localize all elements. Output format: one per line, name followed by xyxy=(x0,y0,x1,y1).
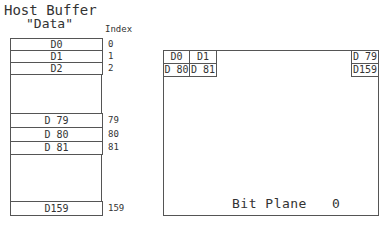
host-buffer-subtitle: "Data" xyxy=(26,16,73,31)
index-79: 79 xyxy=(108,115,119,125)
index-1: 1 xyxy=(108,51,113,61)
plane-cell-d80: D 80 xyxy=(163,63,190,77)
index-0: 0 xyxy=(108,39,113,49)
bit-plane-label: Bit Plane 0 xyxy=(232,196,340,211)
plane-cell-d79: D 79 xyxy=(351,50,379,64)
index-159: 159 xyxy=(108,203,124,213)
index-2: 2 xyxy=(108,63,113,73)
index-81: 81 xyxy=(108,142,119,152)
plane-cell-d1: D1 xyxy=(189,50,217,64)
index-header: Index xyxy=(105,24,132,34)
plane-cell-d0: D0 xyxy=(163,50,190,64)
plane-cell-d159: D159 xyxy=(351,63,379,77)
buffer-row-d80: D 80 xyxy=(10,127,103,142)
buffer-row-d2: D2 xyxy=(10,62,103,75)
plane-cell-d81: D 81 xyxy=(189,63,217,77)
buffer-row-d79: D 79 xyxy=(10,113,103,128)
buffer-row-d159: D159 xyxy=(10,201,103,216)
buffer-row-d81: D 81 xyxy=(10,141,103,155)
index-80: 80 xyxy=(108,129,119,139)
